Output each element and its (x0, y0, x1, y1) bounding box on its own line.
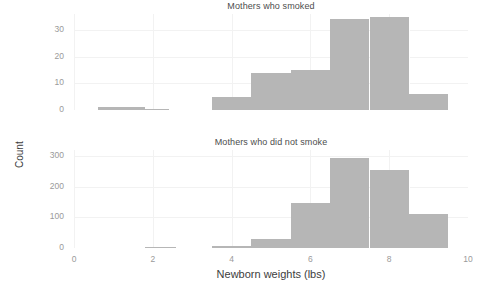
histogram-bar (330, 158, 369, 248)
gridline-y-300 (74, 156, 468, 157)
histogram-bar (145, 109, 169, 110)
y-tick-label: 20 (20, 51, 64, 61)
histogram-bar (409, 214, 448, 248)
facet-title-1: Mothers who did not smoke (74, 137, 468, 147)
gridline-x-0 (74, 14, 75, 110)
gridline-x-0 (74, 150, 75, 248)
x-tick-label: 8 (369, 254, 409, 264)
gridline-x-2 (153, 150, 154, 248)
y-tick-label: 30 (20, 24, 64, 34)
x-tick-label: 10 (448, 254, 488, 264)
histogram-bar (370, 17, 409, 110)
y-tick-label: 0 (20, 242, 64, 252)
y-tick-label: 300 (20, 150, 64, 160)
histogram-bar (145, 247, 177, 248)
y-tick-label: 10 (20, 77, 64, 87)
y-axis-title: Count (14, 141, 25, 168)
x-tick-label: 4 (212, 254, 252, 264)
plot-panel-0 (74, 14, 468, 110)
histogram-bar (251, 73, 290, 110)
x-tick-label: 6 (290, 254, 330, 264)
x-tick-label: 0 (54, 254, 94, 264)
histogram-bar (370, 170, 409, 248)
x-axis-title: Newborn weights (lbs) (74, 268, 468, 280)
histogram-bar (212, 97, 251, 110)
histogram-bar (409, 94, 448, 110)
y-tick-label: 200 (20, 181, 64, 191)
y-tick-label: 100 (20, 211, 64, 221)
histogram-facet-chart: Mothers who smoked0102030Mothers who did… (0, 0, 488, 299)
gridline-x-4 (232, 150, 233, 248)
gridline-x-2 (153, 14, 154, 110)
histogram-bar (251, 239, 290, 248)
facet-title-0: Mothers who smoked (74, 1, 468, 11)
histogram-bar (291, 70, 330, 110)
gridline-x-4 (232, 14, 233, 110)
plot-panel-1 (74, 150, 468, 248)
histogram-bar (212, 246, 251, 248)
y-tick-label: 0 (20, 104, 64, 114)
x-tick-label: 2 (133, 254, 173, 264)
histogram-bar (98, 107, 145, 110)
histogram-bar (291, 203, 330, 248)
histogram-bar (330, 19, 369, 110)
